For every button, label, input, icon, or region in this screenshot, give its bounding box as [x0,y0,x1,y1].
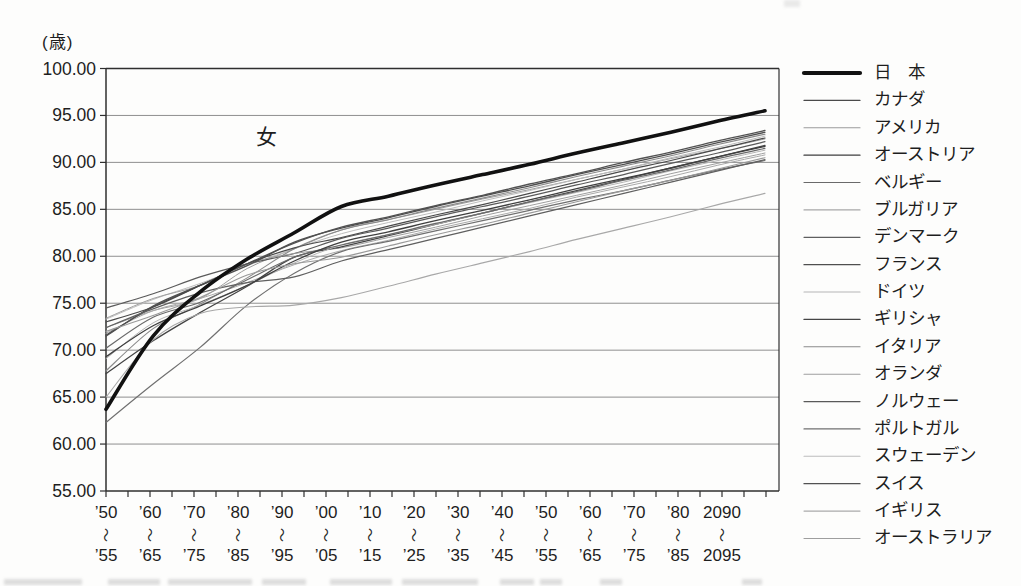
x-tick-label-end-year: ’55 [95,546,118,566]
legend-label-switzerland: スイス [874,473,924,494]
x-tick-label-end-year: ’05 [315,546,338,566]
range-separator: 〜 [183,528,206,542]
x-tick-label-end-year: ’75 [183,546,206,566]
x-tick-label-start-year: ’00 [315,503,338,523]
page-edge-smudge [402,579,478,585]
x-tick-label-end-year: ’65 [579,546,602,566]
x-tick-label-start-year: ’60 [139,503,162,523]
x-tick-label-start-year: ’80 [667,503,690,523]
x-tick-label-end-year: ’15 [359,546,382,566]
page-edge-smudge [600,579,622,585]
x-tick-label-end-year: ’85 [667,546,690,566]
legend-label-greece: ギリシャ [874,308,942,329]
x-tick-label-end-year: 2095 [703,546,741,566]
x-tick-label-end-year: ’55 [535,546,558,566]
x-tick-label-start-year: ’90 [271,503,294,523]
x-tick-label-start-year: ’30 [447,503,470,523]
range-separator: 〜 [271,528,294,542]
legend-label-denmark: デンマーク [874,226,959,247]
legend-label-australia: オーストラリア [874,527,992,548]
x-tick-label-end-year: ’25 [403,546,426,566]
y-tick-label: 65.00 [22,387,96,407]
legend-label-sweden: スウェーデン [874,445,976,466]
x-tick-label-start-year: ’70 [623,503,646,523]
x-tick-label-end-year: ’45 [491,546,514,566]
range-separator: 〜 [535,528,558,542]
x-tick-label-start-year: ’40 [491,503,514,523]
y-tick-label: 70.00 [22,340,96,360]
y-tick-label: 60.00 [22,434,96,454]
x-tick-label-start-year: ’50 [95,503,118,523]
range-separator: 〜 [139,528,162,542]
y-tick-label: 75.00 [22,293,96,313]
x-tick-label-end-year: ’35 [447,546,470,566]
legend-label-netherlands: オランダ [874,363,942,384]
legend-label-bulgaria: ブルガリア [874,199,958,220]
range-separator: 〜 [667,528,690,542]
range-separator: 〜 [403,528,426,542]
legend-label-uk: イギリス [874,500,942,521]
page-edge-smudge [784,0,800,7]
page-edge-smudge [540,579,562,585]
page-edge-smudge [742,579,762,585]
range-separator: 〜 [711,528,734,542]
page-edge-smudge [262,579,306,585]
y-tick-label: 85.00 [22,199,96,219]
range-separator: 〜 [359,528,382,542]
x-tick-label-start-year: ’10 [359,503,382,523]
y-tick-label: 100.00 [22,59,96,79]
page-edge-smudge [4,579,82,585]
range-separator: 〜 [315,528,338,542]
gender-annotation: 女 [256,120,277,150]
range-separator: 〜 [579,528,602,542]
scanned-figure-page: (歳) 女 100.0095.0090.0085.0080.0075.0070.… [0,0,1021,586]
page-edge-smudge [500,579,534,585]
x-tick-label-end-year: ’65 [139,546,162,566]
legend-label-usa: アメリカ [874,117,941,138]
legend-label-germany: ドイツ [874,281,925,302]
range-separator: 〜 [227,528,250,542]
range-separator: 〜 [491,528,514,542]
y-tick-label: 80.00 [22,246,96,266]
y-tick-label: 95.00 [22,105,96,125]
legend-label-japan: 日 本 [874,62,925,83]
x-tick-label-start-year: ’60 [579,503,602,523]
y-tick-label: 90.00 [22,152,96,172]
series-line-belgium [106,148,765,348]
x-tick-label-start-year: ’70 [183,503,206,523]
page-edge-smudge [330,579,392,585]
legend-label-portugal: ポルトガル [874,418,959,439]
legend-label-austria: オーストリア [874,144,975,165]
page-edge-smudge [168,579,252,585]
x-tick-label: 2090〜2095 [690,503,754,566]
legend-label-italy: イタリア [874,336,941,357]
x-tick-label-end-year: ’95 [271,546,294,566]
life-expectancy-line-chart [0,0,1021,586]
legend-label-norway: ノルウェー [874,391,959,412]
series-line-canada [106,138,765,322]
x-tick-label-start-year: ’50 [535,503,558,523]
y-tick-label: 55.00 [22,481,96,501]
legend-label-france: フランス [874,254,942,275]
series-line-greece [106,146,765,374]
x-tick-label-end-year: ’75 [623,546,646,566]
range-separator: 〜 [95,528,118,542]
x-tick-label-start-year: ’20 [403,503,426,523]
x-tick-label-start-year: ’80 [227,503,250,523]
legend-label-canada: カナダ [874,89,925,110]
range-separator: 〜 [447,528,470,542]
page-edge-smudge [108,579,160,585]
x-tick-label-end-year: ’85 [227,546,250,566]
range-separator: 〜 [623,528,646,542]
legend-label-belgium: ベルギー [874,172,942,193]
series-line-australia [106,139,765,328]
x-tick-label-start-year: 2090 [703,503,741,523]
